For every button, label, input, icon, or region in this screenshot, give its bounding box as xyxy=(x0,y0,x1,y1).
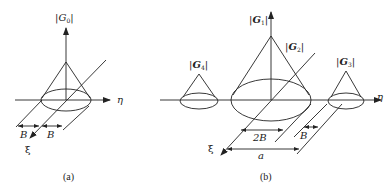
cone-base-g4 xyxy=(180,93,218,109)
eta-label-b: η xyxy=(377,92,383,102)
diagram-drawing xyxy=(0,0,391,186)
cone-side-left-g1 xyxy=(233,36,271,95)
g2-label: |G2| xyxy=(285,42,304,53)
g3-label: |G3| xyxy=(336,57,355,68)
dimension-label-b-left: B xyxy=(20,130,27,140)
xi-label-b: ξ xyxy=(208,144,214,154)
dimension-label-b-right: B xyxy=(47,130,54,140)
caption-a: (a) xyxy=(63,172,74,182)
figure-canvas: |G0| η ξ B B (a) |G1| |G2| |G3| |G4| η ξ… xyxy=(0,0,391,186)
extension-b-left xyxy=(294,104,327,137)
panel-a-drawing xyxy=(15,28,110,138)
extension-right-a xyxy=(63,106,89,130)
cone-side-left-a xyxy=(42,62,66,98)
dimension-label-b: B xyxy=(300,131,307,141)
eta-label-a: η xyxy=(117,95,123,105)
g1-label: |G1| xyxy=(249,15,268,26)
g0-label: |G0| xyxy=(55,13,74,24)
extension-left-a xyxy=(16,100,42,127)
cone-base-g3 xyxy=(328,93,364,109)
dimension-label-a: a xyxy=(258,151,264,161)
g4-label: |G4| xyxy=(189,60,208,71)
caption-b: (b) xyxy=(260,172,272,182)
panel-b-drawing xyxy=(160,12,381,155)
xi-label-a: ξ xyxy=(25,145,31,155)
dimension-label-2b: 2B xyxy=(253,133,267,143)
